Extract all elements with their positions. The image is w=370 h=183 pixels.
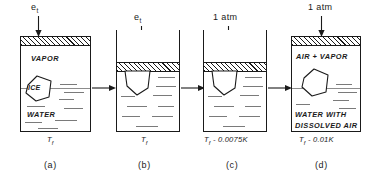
water-dash xyxy=(64,92,84,93)
panel-a-ice-label: ICE xyxy=(28,84,41,91)
panel-d-caption: (d) xyxy=(315,160,328,170)
panel-a-piston xyxy=(20,36,91,46)
panel-d-piston xyxy=(291,36,361,46)
water-dash xyxy=(122,116,140,117)
panel-c-pressure-label: 1 atm xyxy=(213,12,238,22)
panel-d-temp-delta: - 0.01K xyxy=(306,135,334,144)
water-dash xyxy=(208,96,222,97)
panel-a-region-water: WATER xyxy=(27,110,55,119)
panel-a-caption: (a) xyxy=(44,160,57,170)
panel-c-temperature: Tf - 0.0075K xyxy=(204,135,248,146)
water-dash xyxy=(156,86,176,87)
panel-d-region-air-vapor: AIR + VAPOR xyxy=(296,52,348,61)
water-dash xyxy=(153,95,172,96)
water-dash xyxy=(64,108,83,109)
water-dash xyxy=(336,84,352,85)
panel-b-temp-subscript: f xyxy=(146,140,148,146)
panel-b-pressure-label: et xyxy=(134,12,142,24)
water-dash xyxy=(214,106,234,107)
water-dash xyxy=(333,100,349,101)
panel-a-temperature: Tf xyxy=(47,135,54,146)
water-dash xyxy=(339,108,356,109)
water-dash xyxy=(121,96,135,97)
water-dash xyxy=(60,84,77,85)
panel-a-temp-subscript: f xyxy=(52,140,54,146)
water-dash xyxy=(136,126,158,127)
water-dash xyxy=(127,106,147,107)
panel-c-caption: (c) xyxy=(226,160,238,170)
panel-b-pressure-subscript: t xyxy=(139,17,141,24)
panel-a-region-vapor: VAPOR xyxy=(31,54,59,63)
panel-d-temperature: Tf - 0.01K xyxy=(299,135,334,146)
panel-c-temp-delta: - 0.0075K xyxy=(211,135,248,144)
panel-d-pressure-label: 1 atm xyxy=(308,2,333,12)
panel-a-pressure-label: et xyxy=(31,2,39,14)
water-dash xyxy=(27,106,45,107)
water-dash xyxy=(38,128,58,129)
water-dash xyxy=(223,126,245,127)
panel-d-region-water-line2: DISSOLVED AIR xyxy=(295,121,358,130)
panel-b-temperature: Tf xyxy=(141,135,148,146)
water-dash xyxy=(240,95,259,96)
water-dash xyxy=(25,122,42,123)
water-dash xyxy=(209,116,227,117)
panel-a-down-arrow xyxy=(36,16,46,38)
water-dash xyxy=(55,120,77,121)
panel-d-region-water-line1: WATER WITH xyxy=(295,110,347,119)
panel-a-pressure-subscript: t xyxy=(36,7,38,14)
water-dash xyxy=(245,77,262,78)
panel-b-caption: (b) xyxy=(138,160,151,170)
panel-d-down-arrow xyxy=(319,16,329,38)
water-dash xyxy=(243,86,263,87)
panel-d: 1 atm AIR + VAPOR WATER WITH DISSOLVED A… xyxy=(283,0,370,183)
panel-d-ice-block xyxy=(299,68,333,102)
water-dash xyxy=(245,106,261,107)
water-dash xyxy=(158,77,175,78)
water-dash xyxy=(152,116,173,117)
water-dash xyxy=(296,104,310,105)
water-dash xyxy=(59,99,74,100)
water-dash xyxy=(239,116,260,117)
water-dash xyxy=(338,92,357,93)
water-dash xyxy=(158,106,174,107)
